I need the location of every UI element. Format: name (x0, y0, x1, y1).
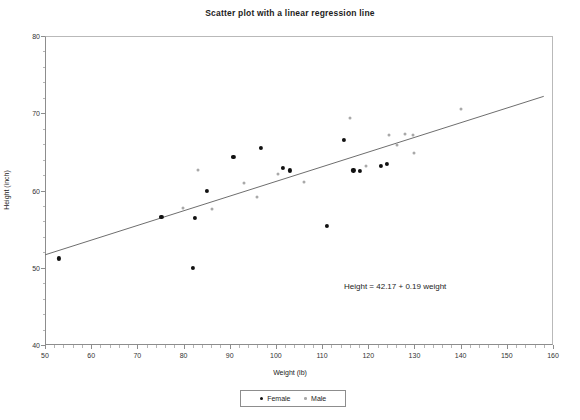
x-axis-minor-tick (451, 345, 452, 348)
data-point-male (411, 133, 414, 136)
data-point-female (325, 224, 329, 228)
x-axis-minor-tick (498, 345, 499, 348)
x-axis-tick-label: 100 (270, 352, 282, 359)
legend-label-female: Female (267, 395, 290, 402)
x-axis-major-tick (553, 345, 554, 349)
x-axis-minor-tick (239, 345, 240, 348)
data-point-male (242, 181, 245, 184)
x-axis-minor-tick (294, 345, 295, 348)
x-axis-minor-tick (100, 345, 101, 348)
x-axis-minor-tick (211, 345, 212, 348)
data-point-male (387, 133, 390, 136)
x-axis-minor-tick (202, 345, 203, 348)
data-point-female (57, 256, 61, 260)
x-axis-major-tick (276, 345, 277, 349)
x-axis-minor-tick (433, 345, 434, 348)
data-point-female (342, 137, 346, 141)
y-axis-tick-label: 70 (18, 110, 40, 117)
x-axis-minor-tick (516, 345, 517, 348)
x-axis-tick-label: 90 (226, 352, 234, 359)
data-point-female (281, 166, 285, 170)
data-point-male (413, 151, 416, 154)
x-axis-minor-tick (479, 345, 480, 348)
x-axis-minor-tick (350, 345, 351, 348)
x-axis-major-tick (91, 345, 92, 349)
x-axis-minor-tick (63, 345, 64, 348)
data-point-female (358, 169, 362, 173)
data-point-male (459, 107, 462, 110)
data-point-female (193, 216, 197, 220)
data-point-female (205, 189, 209, 193)
data-point-female (259, 146, 263, 150)
x-axis-tick-label: 50 (41, 352, 49, 359)
legend-label-male: Male (311, 395, 326, 402)
x-axis-minor-tick (313, 345, 314, 348)
x-axis-minor-tick (73, 345, 74, 348)
x-axis-minor-tick (488, 345, 489, 348)
data-point-male (211, 208, 214, 211)
x-axis-minor-tick (359, 345, 360, 348)
data-points-layer (45, 36, 553, 345)
x-axis-minor-tick (267, 345, 268, 348)
x-axis-minor-tick (405, 345, 406, 348)
regression-equation-annotation: Height = 42.17 + 0.19 weight (344, 282, 446, 291)
data-point-female (288, 168, 292, 172)
x-axis-minor-tick (110, 345, 111, 348)
data-point-male (348, 116, 351, 119)
x-axis-tick-label: 70 (133, 352, 141, 359)
y-axis-title: Height (inch) (3, 170, 10, 210)
data-point-female (351, 168, 355, 172)
data-point-female (191, 266, 195, 270)
x-axis-tick-label: 110 (316, 352, 327, 359)
x-axis-minor-tick (156, 345, 157, 348)
x-axis-minor-tick (331, 345, 332, 348)
x-axis-tick-label: 150 (501, 352, 513, 359)
x-axis-major-tick (45, 345, 46, 349)
legend: Female Male (240, 390, 346, 407)
x-axis-tick-label: 80 (180, 352, 188, 359)
y-axis-tick-label: 60 (18, 187, 40, 194)
x-axis-tick-label: 120 (362, 352, 374, 359)
x-axis-title: Weight (lb) (0, 369, 580, 376)
x-axis-tick-label: 160 (547, 352, 559, 359)
x-axis-minor-tick (304, 345, 305, 348)
y-axis-tick-label: 40 (18, 342, 40, 349)
x-axis-major-tick (184, 345, 185, 349)
male-marker-icon (304, 397, 307, 400)
x-axis-minor-tick (442, 345, 443, 348)
data-point-male (404, 133, 407, 136)
x-axis-major-tick (507, 345, 508, 349)
x-axis-major-tick (230, 345, 231, 349)
x-axis-major-tick (414, 345, 415, 349)
y-axis-tick-label: 50 (18, 264, 40, 271)
x-axis-minor-tick (119, 345, 120, 348)
x-axis-major-tick (137, 345, 138, 349)
x-axis-tick-label: 60 (87, 352, 95, 359)
data-point-female (231, 154, 235, 158)
x-axis-minor-tick (535, 345, 536, 348)
data-point-male (364, 164, 367, 167)
x-axis-major-tick (322, 345, 323, 349)
x-axis-minor-tick (54, 345, 55, 348)
chart-title: Scatter plot with a linear regression li… (0, 8, 580, 18)
x-axis-minor-tick (470, 345, 471, 348)
x-axis-minor-tick (341, 345, 342, 348)
x-axis-minor-tick (378, 345, 379, 348)
x-axis-major-tick (461, 345, 462, 349)
data-point-female (379, 164, 383, 168)
x-axis-tick-label: 130 (409, 352, 421, 359)
data-point-female (159, 215, 163, 219)
female-marker-icon (260, 397, 263, 400)
x-axis-minor-tick (165, 345, 166, 348)
data-point-male (395, 143, 398, 146)
data-point-male (197, 169, 200, 172)
x-axis-major-tick (368, 345, 369, 349)
x-axis-minor-tick (193, 345, 194, 348)
x-axis-minor-tick (544, 345, 545, 348)
x-axis-tick-label: 140 (455, 352, 467, 359)
legend-item-male: Male (304, 395, 326, 402)
data-point-male (256, 195, 259, 198)
x-axis-minor-tick (128, 345, 129, 348)
data-point-male (277, 173, 280, 176)
x-axis-minor-tick (82, 345, 83, 348)
